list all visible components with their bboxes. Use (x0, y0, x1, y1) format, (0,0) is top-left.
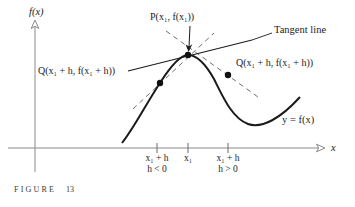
point-P-arrow (186, 26, 193, 52)
tick-label-left-condition: h < 0 (131, 165, 183, 175)
point-P-dot (185, 52, 191, 58)
figure-caption-number: 13 (66, 185, 74, 194)
point-P-label: P(x₁, f(x₁)) (150, 12, 194, 23)
tick-label-right: x₁ + h h > 0 (202, 154, 254, 175)
point-Q-left-label: Q(x₁ + h, f(x₁ + h)) (38, 66, 115, 77)
tangent-line-label: Tangent line (274, 24, 326, 35)
y-axis-label: f(x) (29, 6, 44, 17)
tick-label-center-value: x₁ (184, 153, 192, 163)
figure-caption-word: FIGURE (14, 185, 56, 194)
point-Q-right-label: Q(x₁ + h, f(x₁ + h)) (236, 58, 313, 69)
point-Q-left-dot (157, 80, 163, 86)
tick-label-right-condition: h > 0 (202, 165, 254, 175)
tick-label-center: x₁ (176, 154, 200, 164)
tick-label-right-value: x₁ + h (217, 153, 240, 163)
tangent-leader (252, 33, 272, 40)
curve-equation-label: y = f(x) (282, 114, 314, 125)
secant-line-left (133, 33, 214, 109)
tick-label-left-value: x₁ + h (146, 153, 169, 163)
figure-container: f(x) x P(x₁, f(x₁)) Tangent line Q(x₁ + … (0, 0, 355, 207)
point-Q-right-dot (225, 72, 231, 78)
y-axis (31, 20, 39, 172)
figure-caption: FIGURE13 (14, 185, 74, 194)
x-axis-label: x (331, 142, 336, 153)
x-axis (8, 144, 325, 152)
